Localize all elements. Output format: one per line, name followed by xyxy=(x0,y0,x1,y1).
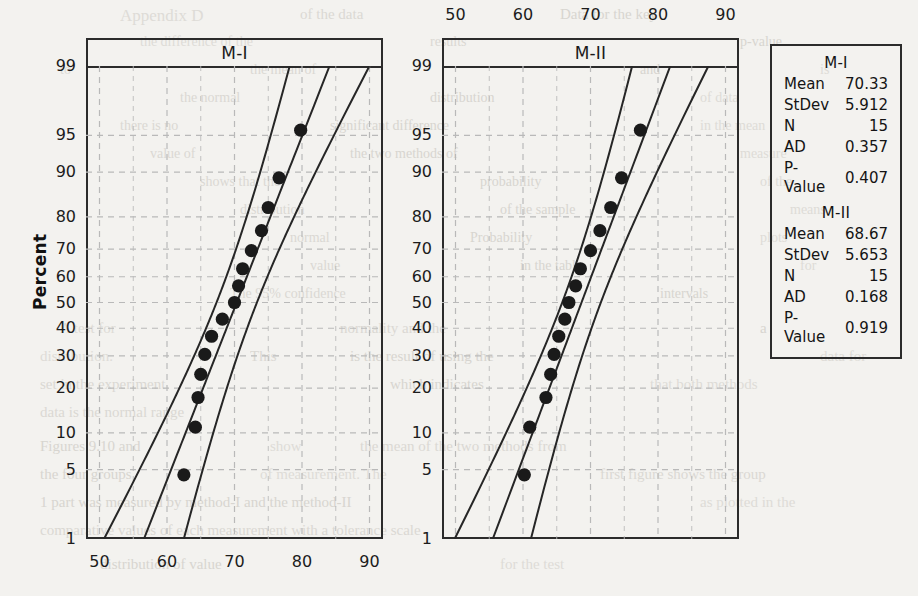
y-tick-label: 1 xyxy=(28,529,76,548)
x-tick-label: 80 xyxy=(633,5,683,24)
stats-row: StDev5.653 xyxy=(784,245,888,266)
y-tick-label: 60 xyxy=(384,267,432,286)
stats-row-value: 70.33 xyxy=(845,74,888,95)
stats-group-m2-title: M-II xyxy=(784,204,888,222)
stats-row-label: N xyxy=(784,116,845,137)
stats-row: Mean70.33 xyxy=(784,74,888,95)
stats-row-value: 15 xyxy=(845,116,888,137)
stats-row: Mean68.67 xyxy=(784,224,888,245)
stats-row-label: StDev xyxy=(784,95,845,116)
stats-row-value: 5.912 xyxy=(845,95,888,116)
stats-row-label: AD xyxy=(784,137,845,158)
stats-row-value: 0.407 xyxy=(845,158,888,198)
y-tick-label: 50 xyxy=(28,293,76,312)
stats-row-value: 15 xyxy=(845,266,888,287)
stats-row: N15 xyxy=(784,116,888,137)
y-tick-label: 40 xyxy=(28,318,76,337)
y-tick-label: 99 xyxy=(384,56,432,75)
y-tick-label: 10 xyxy=(384,423,432,442)
stats-row-label: StDev xyxy=(784,245,845,266)
y-tick-label: 1 xyxy=(384,529,432,548)
y-tick-label: 30 xyxy=(28,346,76,365)
stats-row-label: Mean xyxy=(784,224,845,245)
x-tick-label: 80 xyxy=(277,552,327,571)
stats-row: StDev5.912 xyxy=(784,95,888,116)
stats-row-value: 5.653 xyxy=(845,245,888,266)
probability-plot-figure: Percent M-I M-II M-I Mean70.33StDev5.912… xyxy=(0,0,918,596)
y-tick-label: 95 xyxy=(384,125,432,144)
stats-row: AD0.168 xyxy=(784,287,888,308)
x-tick-label: 50 xyxy=(75,552,125,571)
y-tick-label: 90 xyxy=(28,162,76,181)
stats-row-label: Mean xyxy=(784,74,845,95)
y-tick-label: 50 xyxy=(384,293,432,312)
y-tick-label: 10 xyxy=(28,423,76,442)
stats-row-value: 0.168 xyxy=(845,287,888,308)
y-tick-label: 5 xyxy=(384,460,432,479)
panel-m2: M-II xyxy=(420,0,760,596)
stats-row: AD0.357 xyxy=(784,137,888,158)
y-tick-label: 90 xyxy=(384,162,432,181)
stats-row-label: P-Value xyxy=(784,308,845,348)
stats-row-value: 68.67 xyxy=(845,224,888,245)
y-tick-label: 70 xyxy=(28,239,76,258)
stats-row-label: AD xyxy=(784,287,845,308)
y-tick-label: 30 xyxy=(384,346,432,365)
stats-table-m2: Mean68.67StDev5.653N15AD0.168P-Value0.91… xyxy=(784,224,888,348)
statistics-legend-box: M-I Mean70.33StDev5.912N15AD0.357P-Value… xyxy=(770,44,902,359)
stats-row-value: 0.919 xyxy=(845,308,888,348)
stats-table-m1: Mean70.33StDev5.912N15AD0.357P-Value0.40… xyxy=(784,74,888,198)
panel-m2-canvas xyxy=(420,0,760,596)
y-tick-label: 20 xyxy=(28,378,76,397)
y-tick-label: 60 xyxy=(28,267,76,286)
x-tick-label: 70 xyxy=(210,552,260,571)
x-tick-label: 60 xyxy=(142,552,192,571)
y-tick-label: 40 xyxy=(384,318,432,337)
y-tick-label: 95 xyxy=(28,125,76,144)
stats-row-value: 0.357 xyxy=(845,137,888,158)
stats-row: P-Value0.919 xyxy=(784,308,888,348)
x-tick-label: 70 xyxy=(566,5,616,24)
x-tick-label: 60 xyxy=(498,5,548,24)
y-tick-label: 99 xyxy=(28,56,76,75)
stats-row: P-Value0.407 xyxy=(784,158,888,198)
y-tick-label: 80 xyxy=(28,207,76,226)
x-tick-label: 90 xyxy=(701,5,751,24)
stats-row-label: N xyxy=(784,266,845,287)
x-tick-label: 90 xyxy=(345,552,395,571)
y-tick-label: 80 xyxy=(384,207,432,226)
y-tick-label: 5 xyxy=(28,460,76,479)
x-tick-label: 50 xyxy=(431,5,481,24)
stats-row: N15 xyxy=(784,266,888,287)
y-tick-label: 20 xyxy=(384,378,432,397)
stats-row-label: P-Value xyxy=(784,158,845,198)
stats-group-m1-title: M-I xyxy=(784,54,888,72)
y-tick-label: 70 xyxy=(384,239,432,258)
